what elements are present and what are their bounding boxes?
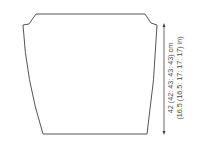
- panel-outline: [23, 14, 157, 134]
- height-measurement-label: 42 (42: 43: 43: 43) cm (16.5 (16.5: 17: …: [166, 22, 184, 134]
- measurement-cm: 42 (42: 43: 43: 43) cm: [166, 22, 175, 134]
- measurement-in: (16.5 (16.5: 17: 17: 17) in): [175, 22, 184, 134]
